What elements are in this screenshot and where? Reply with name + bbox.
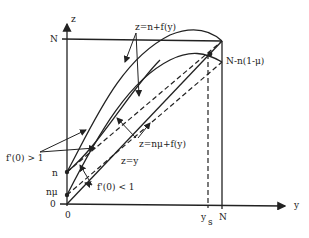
tick-origin-y: 0 [65,210,71,220]
y-axis-label: y [293,200,300,210]
slope-lt-label: f'(0) < 1 [97,182,135,192]
y-axis [60,204,285,206]
point-nmu [65,193,69,197]
diagonal-label: z=y [121,156,139,166]
slope-gt-label: f'(0) > 1 [6,153,44,163]
tick-ys-sub: s [208,217,213,227]
lower-label-arrow-2 [138,123,150,138]
intersection-label: N-n(1-μ) [226,56,264,66]
tick-n: n [52,168,58,178]
tick-N-y: N [219,212,227,222]
lower-curve-label: z=nμ+f(y) [139,139,186,149]
steady-state-point [208,52,213,57]
n-level-line [62,39,222,41]
tick-nmu: nμ [46,187,58,197]
diagram-canvas: z y N n nμ 0 0 y s N z=n+f(y) z=nμ+f(y) … [0,0,309,238]
lower-curve-steep [67,53,222,195]
upper-label-arrow-1 [125,33,136,62]
tick-ys: y [200,212,207,222]
tick-N-z: N [50,34,58,44]
point-n [65,170,69,174]
diagonal-line [67,41,222,204]
z-axis-label: z [71,14,76,24]
tick-origin-z: 0 [50,199,56,209]
upper-curve-label: z=n+f(y) [135,22,176,32]
